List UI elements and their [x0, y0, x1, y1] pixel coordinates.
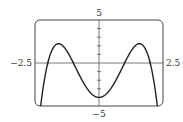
- x-min-label: −2.5: [10, 58, 32, 68]
- function-plot: 5 −5 −2.5 2.5: [0, 0, 183, 122]
- x-max-label: 2.5: [166, 58, 181, 68]
- y-max-label: 5: [96, 8, 102, 18]
- y-min-label: −5: [92, 109, 106, 119]
